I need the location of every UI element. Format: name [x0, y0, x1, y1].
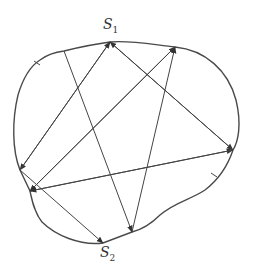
billiard-diagram — [0, 0, 259, 278]
label-s2: S2 — [100, 244, 115, 263]
label-s1: S1 — [103, 16, 118, 35]
diagram-canvas: S1 S2 — [0, 0, 259, 278]
trajectory-arrow — [30, 150, 233, 191]
trajectory-arrow — [132, 47, 175, 232]
trajectory-arrow — [20, 42, 110, 170]
trajectory-arrow — [20, 170, 103, 243]
trajectory-arrow — [64, 51, 132, 232]
trajectory-arrows — [20, 42, 233, 243]
closed-boundary-curve — [14, 42, 239, 244]
trajectory-arrow — [110, 42, 233, 150]
tick-mark — [211, 173, 217, 177]
trajectory-arrow — [30, 47, 175, 191]
